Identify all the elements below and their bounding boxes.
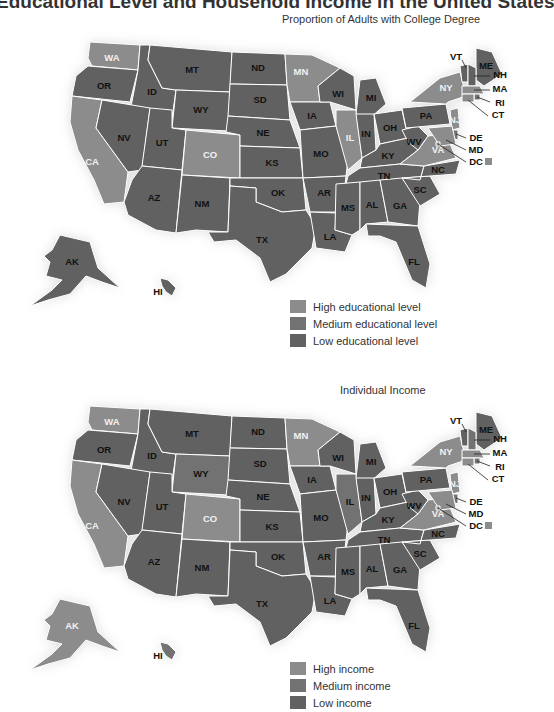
state-label-ma: MA bbox=[493, 447, 508, 458]
swatch-medium bbox=[290, 679, 306, 692]
state-label-ak: AK bbox=[65, 620, 79, 631]
legend-item-medium: Medium income bbox=[290, 677, 391, 694]
state-label-or: OR bbox=[97, 80, 111, 91]
state-label-ms: MS bbox=[341, 566, 355, 577]
state-label-or: OR bbox=[97, 444, 111, 455]
state-label-hi: HI bbox=[153, 286, 163, 297]
state-label-me: ME bbox=[479, 424, 493, 435]
state-label-ne: NE bbox=[256, 491, 269, 502]
state-label-nj: NJ bbox=[449, 478, 461, 489]
state-label-wy: WY bbox=[193, 468, 209, 479]
state-label-ct: CT bbox=[492, 473, 505, 484]
state-label-hi: HI bbox=[153, 650, 163, 661]
state-nh bbox=[468, 64, 476, 86]
swatch-low bbox=[290, 334, 306, 347]
state-label-ne: NE bbox=[256, 127, 269, 138]
state-ak bbox=[30, 235, 120, 306]
state-label-ks: KS bbox=[265, 157, 278, 168]
state-label-il: IL bbox=[346, 496, 355, 507]
state-label-md: MD bbox=[469, 508, 484, 519]
state-label-in: IN bbox=[361, 492, 371, 503]
state-label-de: DE bbox=[469, 496, 482, 507]
us-map: WAORCAIDNVMTWYUTCOAZNMNDSDNEKSOKTXMNIAMO… bbox=[0, 357, 529, 712]
state-label-ny: NY bbox=[439, 446, 453, 457]
leader-line bbox=[468, 464, 488, 480]
state-label-ri: RI bbox=[495, 97, 505, 108]
state-label-tn: TN bbox=[378, 534, 391, 545]
state-label-vt: VT bbox=[450, 51, 462, 62]
state-label-nh: NH bbox=[493, 433, 507, 444]
state-label-sc: SC bbox=[413, 548, 426, 559]
state-label-ky: KY bbox=[381, 150, 395, 161]
state-ny bbox=[410, 436, 466, 468]
state-label-ia: IA bbox=[307, 474, 317, 485]
state-label-ma: MA bbox=[493, 83, 508, 94]
state-label-ga: GA bbox=[393, 200, 407, 211]
legend-item-high: High educational level bbox=[290, 298, 437, 315]
state-label-mi: MI bbox=[366, 92, 377, 103]
state-label-nv: NV bbox=[117, 132, 131, 143]
state-label-pa: PA bbox=[420, 474, 433, 485]
state-label-ks: KS bbox=[265, 521, 278, 532]
state-vt bbox=[460, 64, 468, 82]
state-label-sd: SD bbox=[253, 458, 266, 469]
state-label-il: IL bbox=[346, 132, 355, 143]
state-label-dc: DC bbox=[469, 156, 483, 167]
state-label-az: AZ bbox=[148, 556, 161, 567]
state-label-nj: NJ bbox=[449, 114, 461, 125]
state-label-ca: CA bbox=[85, 520, 99, 531]
legend-label: High income bbox=[313, 663, 374, 675]
state-label-id: ID bbox=[147, 86, 157, 97]
state-label-fl: FL bbox=[408, 256, 420, 267]
state-label-in: IN bbox=[361, 128, 371, 139]
state-label-vt: VT bbox=[450, 415, 462, 426]
state-label-wv: WV bbox=[406, 136, 422, 147]
state-label-sc: SC bbox=[413, 184, 426, 195]
state-label-az: AZ bbox=[148, 192, 161, 203]
state-label-wi: WI bbox=[332, 452, 344, 463]
state-label-ct: CT bbox=[492, 109, 505, 120]
state-label-co: CO bbox=[203, 513, 217, 524]
state-nh bbox=[468, 428, 476, 450]
swatch-medium bbox=[290, 317, 306, 330]
dc-swatch bbox=[485, 522, 492, 529]
state-label-tn: TN bbox=[378, 170, 391, 181]
state-label-fl: FL bbox=[408, 620, 420, 631]
state-label-ut: UT bbox=[156, 501, 169, 512]
state-label-mn: MN bbox=[294, 430, 309, 441]
state-label-ga: GA bbox=[393, 564, 407, 575]
state-fl bbox=[366, 224, 430, 288]
legend-label: Medium educational level bbox=[313, 318, 437, 330]
legend-item-high: High income bbox=[290, 660, 391, 677]
state-label-ut: UT bbox=[156, 137, 169, 148]
legend-label: Medium income bbox=[313, 680, 391, 692]
state-label-mt: MT bbox=[185, 428, 199, 439]
state-label-me: ME bbox=[479, 60, 493, 71]
state-label-co: CO bbox=[203, 149, 217, 160]
state-label-nm: NM bbox=[195, 562, 210, 573]
state-label-wv: WV bbox=[406, 500, 422, 511]
state-label-ca: CA bbox=[85, 156, 99, 167]
state-label-mo: MO bbox=[313, 512, 328, 523]
state-label-ok: OK bbox=[271, 551, 285, 562]
state-label-wy: WY bbox=[193, 104, 209, 115]
state-label-nd: ND bbox=[251, 62, 265, 73]
swatch-high bbox=[290, 300, 306, 313]
state-ny bbox=[410, 72, 466, 104]
state-label-id: ID bbox=[147, 450, 157, 461]
state-ak bbox=[30, 599, 120, 670]
state-label-wa: WA bbox=[104, 416, 119, 427]
swatch-high bbox=[290, 662, 306, 675]
state-label-ak: AK bbox=[65, 256, 79, 267]
state-label-nc: NC bbox=[431, 164, 445, 175]
state-label-mi: MI bbox=[366, 456, 377, 467]
state-label-va: VA bbox=[432, 508, 445, 519]
state-label-ny: NY bbox=[439, 82, 453, 93]
state-label-ri: RI bbox=[495, 461, 505, 472]
state-label-ky: KY bbox=[381, 514, 395, 525]
state-label-oh: OH bbox=[383, 122, 397, 133]
state-label-pa: PA bbox=[420, 110, 433, 121]
dc-swatch bbox=[485, 158, 492, 165]
state-vt bbox=[460, 428, 468, 446]
state-label-ok: OK bbox=[271, 187, 285, 198]
